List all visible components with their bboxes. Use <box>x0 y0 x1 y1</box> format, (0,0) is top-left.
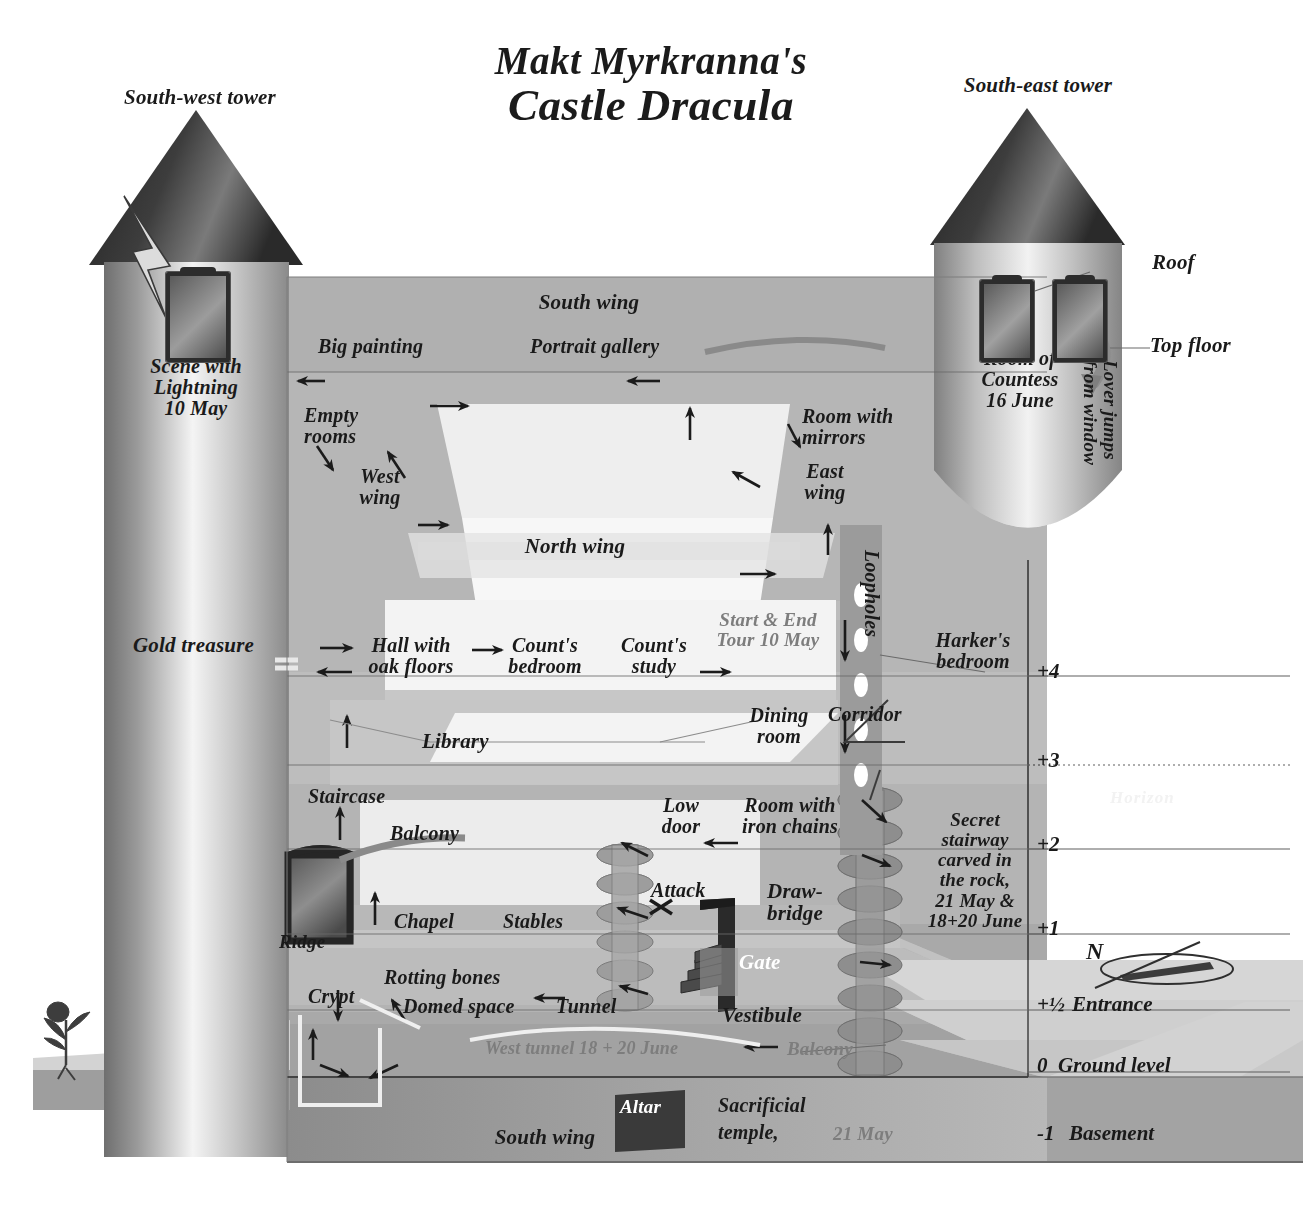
compass-north-label: N <box>1086 939 1104 964</box>
tower-window-east-right <box>1053 280 1107 362</box>
level-plus3: +3 <box>1037 748 1059 773</box>
north-wing-label: North wing <box>525 535 626 557</box>
room-start-end-tour: Start & End Tour 10 May <box>717 610 820 650</box>
room-attack: Attack <box>651 880 706 901</box>
room-low-door: Low door <box>662 795 701 837</box>
room-sacrificial-temple: Sacrificial <box>718 1095 806 1116</box>
room-stables: Stables <box>503 911 563 932</box>
room-tunnel: Tunnel <box>556 996 616 1017</box>
room-rotting-bones: Rotting bones <box>384 967 501 988</box>
room-balcony-upper: Balcony <box>390 823 459 844</box>
room-west-tunnel: West tunnel 18 + 20 June <box>485 1039 678 1058</box>
south-west-tower-label: South-west tower <box>124 86 276 108</box>
room-with-mirrors: Room with mirrors <box>802 406 893 448</box>
room-gold-treasure: Gold treasure <box>133 634 254 656</box>
scene-with-lightning-label: Scene with Lightning 10 May <box>150 356 241 420</box>
castle-diagram: Makt Myrkranna's Castle Dracula South-we… <box>0 0 1303 1228</box>
room-corridor: Corridor <box>828 704 902 725</box>
room-domed-space: Domed space <box>403 996 515 1017</box>
room-chapel: Chapel <box>394 911 454 932</box>
lover-jumps-from-window-label: Lover jumps from window <box>1080 360 1120 465</box>
room-crypt: Crypt <box>308 986 355 1007</box>
title-line-1: Makt Myrkranna's <box>495 38 808 83</box>
room-ridge: Ridge <box>279 932 325 952</box>
room-empty-rooms: Empty rooms <box>304 405 358 447</box>
south-wing-bottom-label: South wing <box>495 1126 596 1148</box>
level-plus1: +1 <box>1037 916 1059 941</box>
level-ground-num: 0 <box>1037 1053 1048 1078</box>
room-balcony-lower: Balcony <box>787 1039 853 1059</box>
room-big-painting: Big painting <box>318 336 423 357</box>
horizon-label: Horizon <box>1110 788 1175 808</box>
room-counts-study: Count's study <box>621 635 687 677</box>
top-floor-label: Top floor <box>1150 334 1231 356</box>
roof-label: Roof <box>1152 251 1195 273</box>
room-portrait-gallery: Portrait gallery <box>530 336 659 357</box>
tower-window-west <box>166 272 230 362</box>
level-plus4: +4 <box>1037 659 1059 684</box>
level-basement-name: Basement <box>1069 1121 1154 1146</box>
room-staircase: Staircase <box>308 786 385 807</box>
room-library: Library <box>422 730 489 752</box>
tower-window-east-left <box>980 280 1034 362</box>
level-half-num: +½ <box>1037 992 1065 1017</box>
room-dining-room: Dining room <box>749 705 808 747</box>
level-plus2: +2 <box>1037 832 1059 857</box>
room-sacrificial-date: 21 May <box>833 1124 893 1144</box>
room-secret-stairway: Secret stairway carved in the rock, 21 M… <box>928 810 1023 931</box>
room-counts-bedroom: Count's bedroom <box>508 635 582 677</box>
east-wing-label: East wing <box>805 461 846 503</box>
west-wing-label: West wing <box>360 466 401 508</box>
level-ground-name: Ground level <box>1058 1053 1171 1078</box>
room-vestibule: Vestibule <box>722 1004 802 1026</box>
south-east-tower-label: South-east tower <box>964 74 1112 96</box>
room-loopholes: Loopholes <box>861 550 882 637</box>
level-basement-num: -1 <box>1037 1121 1055 1146</box>
room-gate: Gate <box>739 951 781 973</box>
page-title: Makt Myrkranna's Castle Dracula <box>495 38 808 131</box>
room-drawbridge: Draw- bridge <box>767 880 823 925</box>
room-altar: Altar <box>620 1097 661 1117</box>
level-half-name: Entrance <box>1072 992 1153 1017</box>
room-harkers-bedroom: Harker's bedroom <box>936 630 1011 672</box>
room-sacrificial-temple-line2: temple, <box>718 1122 779 1143</box>
title-line-2: Castle Dracula <box>495 79 808 131</box>
south-wing-top-label: South wing <box>539 291 640 313</box>
room-with-iron-chains: Room with iron chains <box>742 795 838 837</box>
room-hall-with-oak-floors: Hall with oak floors <box>369 635 454 677</box>
